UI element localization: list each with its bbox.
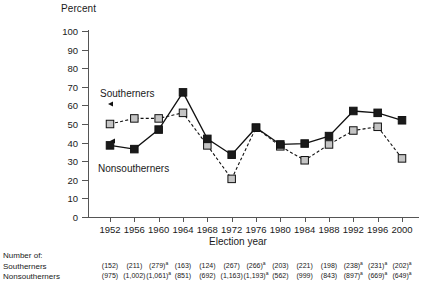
footnote-marker: a	[409, 270, 412, 276]
footnote-marker: a	[384, 270, 387, 276]
data-point-marker	[325, 132, 333, 140]
counts-cell-southerners: (279)a	[149, 262, 168, 269]
footnote-marker: a	[263, 260, 266, 266]
counts-table-title: Number of:	[3, 251, 43, 260]
data-point-marker	[106, 120, 114, 128]
data-point-marker	[374, 123, 382, 131]
counts-cell-nonsoutherners: (851)	[175, 272, 191, 279]
counts-cell-nonsoutherners: (669)a	[368, 272, 387, 279]
data-point-marker	[155, 115, 163, 123]
data-point-marker	[301, 140, 309, 148]
counts-cell-southerners: (163)	[175, 262, 191, 269]
data-point-marker	[325, 141, 333, 149]
counts-cell-southerners: (202)a	[392, 262, 411, 269]
counts-cell-southerners: (198)	[321, 262, 337, 269]
counts-cell-nonsoutherners: (649)a	[392, 272, 411, 279]
counts-cell-southerners: (238)a	[344, 262, 363, 269]
data-point-marker	[155, 126, 163, 134]
data-point-marker	[131, 145, 139, 153]
counts-cell-southerners: (211)	[126, 262, 142, 269]
data-point-marker	[350, 107, 358, 115]
counts-cell-southerners: (267)	[223, 262, 239, 269]
counts-cell-southerners: (124)	[199, 262, 215, 269]
data-point-marker	[277, 141, 285, 149]
counts-cell-southerners: (266)a	[246, 262, 265, 269]
annotation-arrow-southerners	[108, 101, 113, 106]
footnote-marker: a	[360, 260, 363, 266]
counts-cell-nonsoutherners: (843)	[321, 272, 337, 279]
data-point-marker	[131, 115, 139, 123]
data-point-marker	[398, 155, 406, 163]
footnote-marker: a	[409, 260, 412, 266]
counts-cell-nonsoutherners: (1,163)	[221, 272, 243, 279]
data-point-marker	[106, 142, 114, 150]
data-point-marker	[228, 151, 236, 159]
counts-row-label-nonsoutherners: Nonsoutherners	[3, 272, 60, 281]
counts-cell-nonsoutherners: (999)	[296, 272, 312, 279]
data-point-marker	[204, 135, 212, 143]
chart-figure: Percent 1009080706050403020100 195219561…	[0, 0, 426, 287]
counts-cell-southerners: (231)a	[368, 262, 387, 269]
footnote-marker: a	[165, 260, 168, 266]
footnote-marker: a	[266, 270, 269, 276]
data-point-marker	[350, 127, 358, 135]
counts-cell-nonsoutherners: (1,061)a	[146, 272, 171, 279]
counts-cell-southerners: (152)	[102, 262, 118, 269]
counts-cell-nonsoutherners: (562)	[272, 272, 288, 279]
data-point-marker	[252, 124, 260, 132]
footnote-marker: a	[384, 260, 387, 266]
data-point-marker	[374, 109, 382, 117]
counts-cell-nonsoutherners: (975)	[102, 272, 118, 279]
data-point-marker	[398, 117, 406, 125]
data-point-marker	[301, 157, 309, 165]
footnote-marker: a	[168, 270, 171, 276]
counts-cell-southerners: (203)	[272, 262, 288, 269]
data-point-marker	[179, 109, 187, 117]
footnote-marker: a	[360, 270, 363, 276]
counts-cell-nonsoutherners: (692)	[199, 272, 215, 279]
x-axis-title-text: Election year	[209, 236, 267, 247]
counts-table: Number of: Southerners Nonsoutherners (1…	[0, 251, 426, 287]
series-label-southerners: Southerners	[100, 88, 154, 99]
counts-cell-southerners: (221)	[296, 262, 312, 269]
data-point-marker	[228, 175, 236, 183]
counts-cell-nonsoutherners: (897)a	[344, 272, 363, 279]
series-label-nonsoutherners: Nonsoutherners	[98, 163, 169, 174]
x-axis-title: Election year	[0, 236, 426, 247]
data-point-marker	[179, 89, 187, 97]
counts-row-label-southerners: Southerners	[3, 262, 47, 271]
counts-cell-nonsoutherners: (1,193)a	[244, 272, 269, 279]
counts-cell-nonsoutherners: (1,002)	[123, 272, 145, 279]
